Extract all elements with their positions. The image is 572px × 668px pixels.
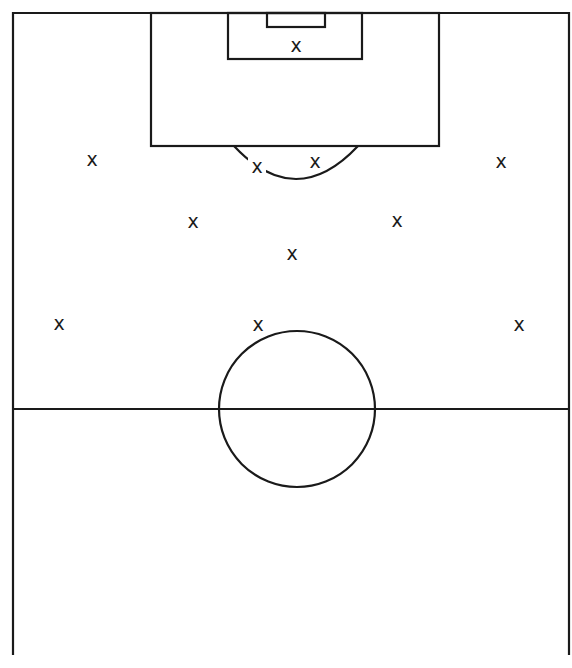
player-marker-center-midfielder[interactable]: x bbox=[284, 243, 300, 263]
goal bbox=[267, 13, 325, 27]
penalty-area bbox=[151, 13, 439, 146]
player-marker-goalkeeper[interactable]: x bbox=[288, 35, 304, 55]
player-marker-left-midfielder[interactable]: x bbox=[185, 211, 201, 231]
pitch-outline bbox=[13, 13, 569, 655]
player-marker-right-forward[interactable]: x bbox=[511, 314, 527, 334]
player-marker-right-center-back[interactable]: x bbox=[307, 151, 323, 171]
player-marker-left-center-back[interactable]: x bbox=[249, 156, 265, 176]
player-marker-right-midfielder[interactable]: x bbox=[389, 210, 405, 230]
player-marker-center-forward[interactable]: x bbox=[250, 314, 266, 334]
football-pitch bbox=[0, 0, 572, 668]
player-marker-left-wide-back[interactable]: x bbox=[84, 149, 100, 169]
player-marker-right-wide-back[interactable]: x bbox=[493, 151, 509, 171]
player-marker-left-forward[interactable]: x bbox=[51, 313, 67, 333]
